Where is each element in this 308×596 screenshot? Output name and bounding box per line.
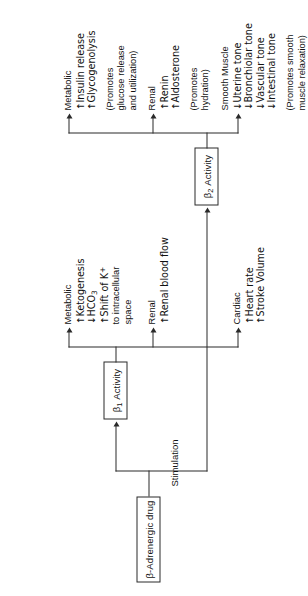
branch-item: ↑Renin	[158, 45, 170, 110]
connector-beta2-stem	[206, 132, 207, 148]
branch-item: ↑Glycogenolysis	[86, 30, 98, 110]
arrow-beta1-metabolic	[66, 327, 72, 332]
node-beta1-activity-label: β1 Activity	[110, 368, 121, 411]
arrow-to-beta1	[113, 421, 119, 426]
branch-note: glucose release	[116, 30, 128, 110]
connector-beta2-metabolic	[69, 117, 70, 133]
branch-beta2-metabolic: Metabolic ↑Insulin release ↑Glycogenolys…	[63, 30, 140, 110]
connector-beta1-metabolic	[69, 331, 70, 347]
node-beta1-activity: β1 Activity	[104, 361, 128, 419]
connector-beta1-stem	[115, 346, 116, 362]
branch-note: hydration)	[200, 45, 207, 110]
branch-item: ↑Insulin release	[74, 30, 86, 110]
branch-note: (Promotes	[104, 30, 116, 110]
connector-root-stem	[148, 470, 149, 496]
branch-note: (Promotes	[188, 45, 200, 110]
arrow-beta2-metabolic	[66, 113, 72, 118]
edge-label-stimulation: Stimulation	[169, 439, 180, 486]
branch-item: ↑Shift of K+	[98, 258, 111, 324]
connector-beta1-bus	[69, 346, 208, 347]
branch-item: ↓HCO3	[86, 258, 99, 324]
arrow-to-beta2	[204, 207, 207, 212]
connector-to-beta1	[116, 425, 117, 471]
node-adrenergic-drug-label: β-Adrenergic drug	[143, 500, 154, 578]
node-adrenergic-drug: β-Adrenergic drug	[137, 496, 161, 582]
branch-note: and utilization)	[127, 30, 139, 110]
branch-beta1-renal: Renal ↑Renal blood flow	[147, 237, 170, 324]
branch-item: ↑Aldosterone	[170, 45, 182, 110]
flowchart-canvas: β-Adrenergic drug Stimulation β1 Activit…	[57, 0, 208, 596]
node-beta2-activity: β2 Activity	[195, 147, 208, 205]
arrow-beta2-renal	[150, 113, 156, 118]
connector-root-split	[116, 470, 208, 471]
branch-head: Renal	[147, 237, 159, 324]
connector-beta2-bus	[69, 132, 208, 133]
branch-beta2-renal: Renal ↑Renin ↑Aldosterone (Promotes hydr…	[147, 45, 208, 110]
branch-item: to intracellular	[111, 258, 123, 324]
branch-head: Metabolic	[63, 258, 75, 324]
branch-head: Metabolic	[63, 30, 75, 110]
node-beta2-activity-label: β2 Activity	[201, 154, 207, 197]
connector-beta2-renal	[153, 117, 154, 133]
branch-item: ↑Renal blood flow	[158, 237, 170, 324]
branch-item: space	[122, 258, 134, 324]
branch-beta1-metabolic: Metabolic ↑Ketogenesis ↓HCO3 ↑Shift of K…	[63, 258, 135, 324]
arrow-beta1-renal	[150, 327, 156, 332]
diagram-frame: β-Adrenergic drug Stimulation β1 Activit…	[0, 0, 207, 596]
branch-item: ↑Ketogenesis	[74, 258, 86, 324]
connector-beta1-renal	[153, 331, 154, 347]
branch-head: Renal	[147, 45, 159, 110]
connector-to-beta2	[207, 211, 208, 471]
